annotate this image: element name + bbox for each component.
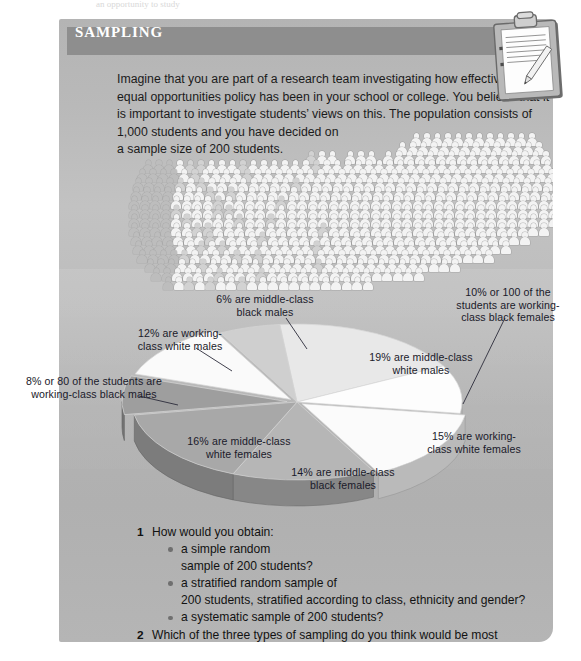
question-item: 2 Which of the three types of sampling d…: [137, 627, 553, 642]
bullet-dot-icon: [168, 616, 173, 621]
pie-label-working-class-black-females: 10% or 100 of the students are working- …: [442, 286, 574, 324]
pie-label-middle-class-black-males: 6% are middle-class black males: [205, 293, 325, 318]
pie-label-middle-class-black-females: 14% are middle-class black females: [276, 466, 410, 491]
pie-label-middle-class-white-females: 16% are middle-class white females: [172, 435, 306, 460]
list-item: a stratified random sample of 200 studen…: [152, 575, 553, 609]
page-title: SAMPLING: [75, 24, 163, 41]
question-number: 1: [137, 524, 144, 541]
pie-label-working-class-white-females: 15% are working- class white females: [412, 430, 536, 455]
clipped-top-text: an opportunity to study: [0, 0, 581, 9]
question-text: How would you obtain:: [152, 524, 553, 541]
question-text: Which of the three types of sampling do …: [152, 627, 553, 642]
question-number: 2: [137, 627, 144, 642]
bullet-line: a systematic sample of 200 students?: [181, 609, 553, 626]
bullet-line: a stratified random sample of: [181, 575, 553, 592]
question-item: 1 How would you obtain: a simple random …: [137, 524, 553, 627]
bullet-dot-icon: [168, 547, 173, 552]
question-list: 1 How would you obtain: a simple random …: [137, 524, 553, 642]
bullet-dot-icon: [168, 581, 173, 586]
bullet-line: sample of 200 students?: [181, 558, 553, 575]
pie-label-working-class-black-males: 8% or 80 of the students are working-cla…: [8, 375, 180, 400]
student-population-pictogram: [59, 129, 553, 294]
list-item: a simple random sample of 200 students?: [152, 541, 553, 575]
list-item: a systematic sample of 200 students?: [152, 609, 553, 626]
intro-line: is important to investigate students’ vi…: [117, 106, 517, 124]
bullet-line: 200 students, stratified according to cl…: [181, 592, 553, 609]
intro-line: equal opportunities policy has been in y…: [117, 89, 517, 107]
clipboard-icon: [481, 9, 577, 105]
intro-line: Imagine that you are part of a research …: [117, 71, 517, 89]
question-bullets: a simple random sample of 200 students? …: [152, 541, 553, 626]
pictogram-row: [163, 277, 373, 290]
bullet-line: a simple random: [181, 541, 553, 558]
pie-label-working-class-white-males: 12% are working- class white males: [121, 327, 239, 352]
pie-label-middle-class-white-males: 19% are middle-class white males: [356, 351, 486, 376]
